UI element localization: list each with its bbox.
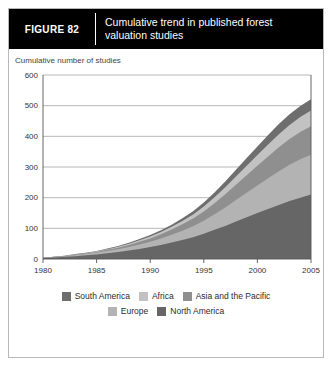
figure-body: Cumulative number of studies 01002003004…	[9, 49, 323, 357]
legend-item-south-america: South America	[62, 291, 130, 301]
legend-swatch-icon	[183, 292, 192, 301]
legend-label: North America	[170, 306, 224, 316]
legend-label: Asia and the Pacific	[196, 291, 271, 301]
svg-text:200: 200	[25, 193, 39, 202]
svg-text:2005: 2005	[302, 266, 320, 275]
stacked-area-chart: 0100200300400500600198019851990199520002…	[9, 69, 323, 287]
figure-card: FIGURE 82 Cumulative trend in published …	[8, 8, 324, 358]
figure-panel: FIGURE 82 Cumulative trend in published …	[0, 0, 332, 374]
svg-text:600: 600	[25, 71, 39, 80]
legend-item-north-america: North America	[157, 306, 224, 316]
y-axis-caption: Cumulative number of studies	[15, 56, 121, 65]
svg-text:1990: 1990	[141, 266, 159, 275]
svg-text:2000: 2000	[249, 266, 267, 275]
svg-text:1995: 1995	[195, 266, 213, 275]
legend-row-1: South America Africa Asia and the Pacifi…	[9, 291, 323, 301]
legend-label: South America	[75, 291, 130, 301]
svg-text:300: 300	[25, 163, 39, 172]
legend-item-europe: Europe	[108, 306, 148, 316]
legend-label: Africa	[152, 291, 174, 301]
svg-text:500: 500	[25, 101, 39, 110]
legend-row-2: Europe North America	[9, 306, 323, 316]
legend-swatch-icon	[157, 307, 166, 316]
legend-swatch-icon	[62, 292, 71, 301]
svg-text:1980: 1980	[34, 266, 52, 275]
svg-text:1985: 1985	[88, 266, 106, 275]
legend-item-africa: Africa	[139, 291, 174, 301]
legend-label: Europe	[121, 306, 148, 316]
chart-legend: South America Africa Asia and the Pacifi…	[9, 291, 323, 321]
figure-title: Cumulative trend in published forest val…	[96, 9, 323, 49]
svg-text:0: 0	[34, 255, 39, 264]
figure-header: FIGURE 82 Cumulative trend in published …	[9, 9, 323, 49]
legend-swatch-icon	[108, 307, 117, 316]
figure-number: FIGURE 82	[9, 9, 95, 49]
legend-item-asia-and-the-pacific: Asia and the Pacific	[183, 291, 271, 301]
legend-swatch-icon	[139, 292, 148, 301]
svg-text:100: 100	[25, 224, 39, 233]
chart-plot-area: 0100200300400500600198019851990199520002…	[9, 69, 323, 287]
svg-text:400: 400	[25, 132, 39, 141]
